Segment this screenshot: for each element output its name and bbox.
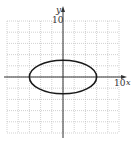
graph-plot: y 10 10 x <box>0 0 134 145</box>
x-axis-label: x <box>126 78 131 87</box>
y-axis <box>61 6 127 138</box>
y-max-tick-label: 10 <box>52 15 64 25</box>
y-arrow-icon <box>61 6 65 12</box>
x-max-tick-label: 10 <box>114 78 126 88</box>
y-axis-label: y <box>55 5 62 15</box>
